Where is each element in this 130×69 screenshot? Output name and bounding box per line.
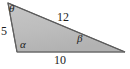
side-label-upper: 12 — [57, 11, 69, 23]
angle-label-beta: β — [77, 33, 82, 44]
triangle-figure: θ α β 5 12 10 — [0, 0, 130, 69]
angle-label-theta: θ — [9, 3, 14, 14]
side-label-left: 5 — [1, 25, 7, 37]
side-label-bottom: 10 — [54, 54, 66, 66]
angle-label-alpha: α — [20, 39, 26, 50]
